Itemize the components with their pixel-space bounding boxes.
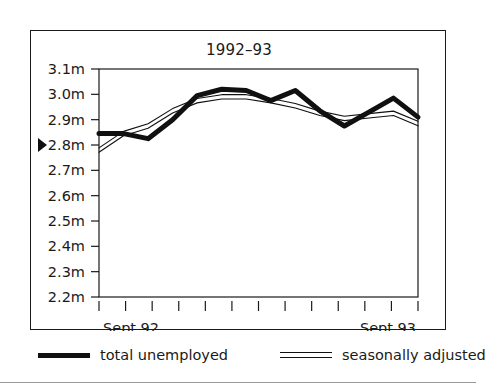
y-tick-label: 3.0m	[48, 86, 85, 102]
page-divider-rule	[0, 382, 476, 383]
y-tick-label: 2.9m	[48, 112, 85, 128]
seasonally-adjusted-line	[99, 99, 418, 152]
legend-label-total-unemployed: total unemployed	[100, 347, 228, 363]
legend-item-total-unemployed: total unemployed	[38, 347, 228, 363]
x-axis-ticks	[99, 301, 418, 311]
legend-label-seasonally-adjusted: seasonally adjusted	[342, 347, 486, 363]
double-line-swatch-icon	[280, 352, 332, 359]
y-axis-marker-arrow	[38, 138, 47, 152]
chart-plot: 3.1m3.0m2.9m2.8m2.7m2.6m2.5m2.4m2.3m2.2m…	[31, 31, 447, 331]
total-unemployed-line	[99, 89, 418, 138]
y-tick-label: 3.1m	[48, 61, 85, 77]
y-tick-label: 2.2m	[48, 289, 85, 305]
y-tick-label: 2.6m	[48, 188, 85, 204]
x-axis-labels: Sept 92Sept 93	[103, 320, 416, 331]
series-total-unemployed	[99, 89, 418, 138]
y-marker-arrow-icon	[38, 138, 47, 152]
series-seasonally-adjusted	[99, 95, 418, 153]
legend-item-seasonally-adjusted: seasonally adjusted	[280, 347, 486, 363]
x-axis-label-left: Sept 92	[103, 320, 159, 331]
chart-frame: 1992–93 3.1m3.0m2.9m2.8m2.7m2.6m2.5m2.4m…	[30, 30, 446, 330]
y-tick-label: 2.3m	[48, 264, 85, 280]
y-tick-label: 2.7m	[48, 162, 85, 178]
y-tick-label: 2.5m	[48, 213, 85, 229]
y-tick-label: 2.4m	[48, 238, 85, 254]
y-axis-labels: 3.1m3.0m2.9m2.8m2.7m2.6m2.5m2.4m2.3m2.2m	[48, 61, 85, 305]
plot-area-border	[99, 69, 418, 297]
thick-line-swatch-icon	[38, 353, 90, 358]
x-axis-label-right: Sept 93	[360, 320, 416, 331]
y-axis-ticks	[91, 69, 99, 297]
y-tick-label: 2.8m	[48, 137, 85, 153]
chart-legend: total unemployed seasonally adjusted	[30, 340, 446, 370]
